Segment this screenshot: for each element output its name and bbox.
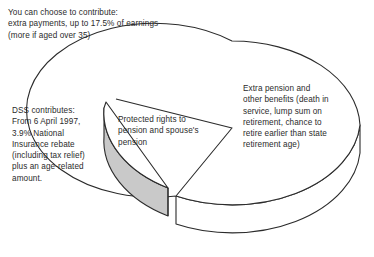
annotation-dss-contributes: DSS contributes: From 6 April 1997, 3.9%… [12, 105, 85, 184]
slice-label-protected-rights: Protected rights to pension and spouse's… [118, 114, 199, 148]
annotation-contribute: You can choose to contribute: extra paym… [8, 7, 158, 41]
figure-canvas: You can choose to contribute: extra paym… [0, 0, 374, 257]
slice-label-extra-pension: Extra pension and other benefits (death … [243, 83, 329, 151]
